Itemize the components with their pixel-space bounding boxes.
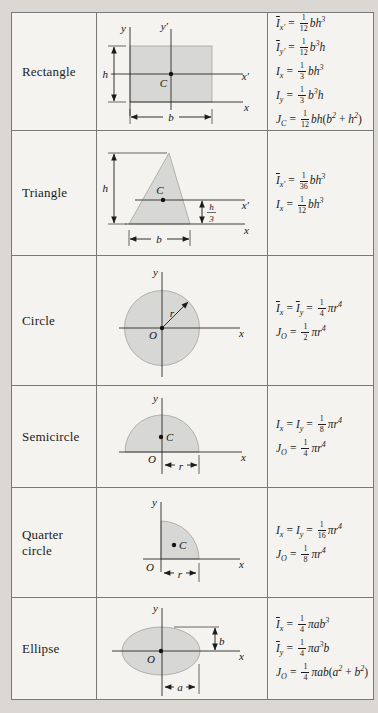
axis-label-x: x <box>240 451 246 463</box>
dim-label-h-over-3-num: h <box>209 202 214 212</box>
axis-label-y: y <box>151 496 157 508</box>
formulas-semicircle: Ix=Iy=18πr4JO=14πr4 <box>268 386 373 488</box>
axis-label-x: x <box>238 558 244 570</box>
centroid-dot <box>169 72 173 76</box>
origin-label: O <box>146 561 154 573</box>
formulas-triangle: Ix′=136bh3Ix=112bh3 <box>268 131 373 256</box>
dim-label-b: b <box>168 111 174 123</box>
diagram-cell-quarter-circle: y x C O r <box>97 488 268 598</box>
centroid-label: C <box>179 539 187 551</box>
axis-label-x: x <box>238 650 244 662</box>
row-label-ellipse: Ellipse <box>12 598 97 699</box>
axis-label-y: y <box>152 392 158 404</box>
row-label-circle: Circle <box>12 256 97 386</box>
centroid-label: C <box>160 77 168 89</box>
origin-dot <box>160 326 164 330</box>
formula: Ix=14πab3 <box>276 615 371 634</box>
formulas-circle: Ix=Iy=14πr4JO=12πr4 <box>268 256 373 386</box>
dim-label-a: a <box>177 681 183 693</box>
origin-label: O <box>149 329 157 341</box>
origin-label: O <box>147 653 155 665</box>
axis-label-x: x <box>238 327 244 339</box>
axis-label-x: x <box>243 224 249 236</box>
radius-label: r <box>179 460 184 472</box>
formulas-ellipse: Ix=14πab3Iy=14πa3bJO=14πab(a2 + b2) <box>268 598 373 699</box>
formula: Ix=Iy=14πr4 <box>276 299 371 318</box>
formula: JO=18πr4 <box>276 545 371 564</box>
centroid-dot <box>161 198 165 202</box>
formula: JO=14πr4 <box>276 439 371 458</box>
formula: Iy=13b3h <box>276 86 371 105</box>
origin-dot <box>159 649 163 653</box>
formula: Ix=112bh3 <box>276 196 371 215</box>
formula: Ix′=136bh3 <box>276 172 371 191</box>
dim-label-b: b <box>156 233 162 245</box>
moments-of-inertia-table: Rectangle y y′ x′ x h <box>11 12 374 700</box>
centroid-label: C <box>156 184 164 196</box>
diagram-cell-ellipse: y x b a O <box>97 598 268 699</box>
centroid-dot <box>159 435 163 439</box>
formula: Ix=13bh3 <box>276 62 371 81</box>
origin-label: O <box>148 453 156 465</box>
radius-label: r <box>178 568 183 580</box>
dim-label-b: b <box>219 635 225 647</box>
ellipse-diagram: y x b a O <box>97 598 267 698</box>
row-label-rectangle: Rectangle <box>12 13 97 131</box>
axis-label-y: y <box>152 602 158 614</box>
dim-label-h: h <box>103 68 109 80</box>
diagram-cell-semicircle: y x C O r <box>97 386 268 488</box>
semicircle-diagram: y x C O r <box>97 386 267 487</box>
quarter-circle-diagram: y x C O r <box>97 488 267 597</box>
axis-label-y: y <box>120 22 126 34</box>
centroid-dot <box>172 543 176 547</box>
diagram-cell-rectangle: y y′ x′ x h b C <box>97 13 268 131</box>
circle-diagram: y x r O <box>97 256 267 385</box>
formula: JO=12πr4 <box>276 323 371 342</box>
centroid-label: C <box>166 431 174 443</box>
row-label-triangle: Triangle <box>12 131 97 256</box>
textbook-page: { "colors": { "page_bg": "#dbd8d3", "cel… <box>0 0 378 713</box>
formula: Ix′=112bh3 <box>276 14 371 33</box>
diagram-cell-triangle: h C x′ x b h 3 <box>97 131 268 256</box>
axis-label-y: y <box>152 266 158 278</box>
formula: Iy=14πa3b <box>276 639 371 658</box>
row-label-quarter-circle: Quarter circle <box>12 488 97 598</box>
dim-label-h: h <box>103 182 109 194</box>
formula: JC=112bh(b2 + h2) <box>276 110 371 129</box>
axis-label-x: x <box>243 101 249 113</box>
diagram-cell-circle: y x r O <box>97 256 268 386</box>
radius-label: r <box>170 307 175 319</box>
formulas-rectangle: Ix′=112bh3Iy′=112b3hIx=13bh3Iy=13b3hJC=1… <box>268 13 373 131</box>
rectangle-diagram: y y′ x′ x h b C <box>97 13 267 130</box>
axis-label-x-prime: x′ <box>241 199 250 211</box>
axis-label-x-prime: x′ <box>241 70 250 82</box>
formula: Iy′=112b3h <box>276 38 371 57</box>
formulas-quarter-circle: Ix=Iy=116πr4JO=18πr4 <box>268 488 373 598</box>
dim-label-h-over-3-den: 3 <box>208 214 214 224</box>
triangle-diagram: h C x′ x b h 3 <box>97 131 267 255</box>
formula: Ix=Iy=18πr4 <box>276 415 371 434</box>
axis-label-y-prime: y′ <box>160 20 169 32</box>
formula: JO=14πab(a2 + b2) <box>276 663 371 682</box>
row-label-semicircle: Semicircle <box>12 386 97 488</box>
formula: Ix=Iy=116πr4 <box>276 521 371 540</box>
